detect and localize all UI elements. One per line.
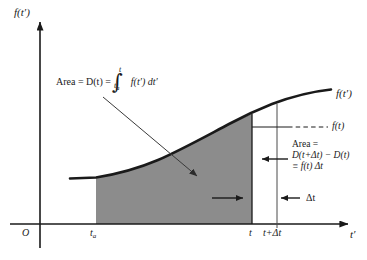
curve-label: f(t′)	[336, 87, 352, 100]
tick-label-t-plus-delta-t: t+Δt	[263, 227, 281, 239]
strip-note-line-1: Area =	[292, 139, 349, 150]
integral-lower-limit: ta	[114, 86, 120, 88]
figure-container: f(t′) t′ O ta t t+Δt f(t′) f(t) Δt Area …	[0, 0, 367, 260]
x-axis-label: t′	[350, 228, 355, 241]
y-axis-label: f(t′)	[14, 6, 30, 19]
figure-canvas	[0, 0, 367, 260]
area-formula-lead: Area = D(t) =	[56, 76, 111, 87]
strip-note-line-2: D(t+Δt) − D(t)	[292, 150, 349, 161]
origin-label: O	[22, 227, 29, 239]
integral-lower-sub: a	[116, 84, 120, 92]
strip-area-note: Area = D(t+Δt) − D(t) ≡ f(t) Δt	[292, 139, 349, 172]
integrand: f(t′) dt′	[131, 76, 158, 87]
shaded-area-under-curve	[96, 114, 252, 224]
tick-label-t: t	[249, 227, 252, 239]
strip-note-line-3: ≡ f(t) Δt	[292, 161, 349, 172]
tick-label-t-a: ta	[90, 227, 96, 240]
area-formula: Area = D(t) =∫ttaf(t′) dt′	[56, 76, 158, 88]
tick-sub-a: a	[93, 232, 97, 240]
level-label-f-of-t: f(t)	[332, 120, 344, 132]
delta-t-label: Δt	[306, 192, 315, 204]
